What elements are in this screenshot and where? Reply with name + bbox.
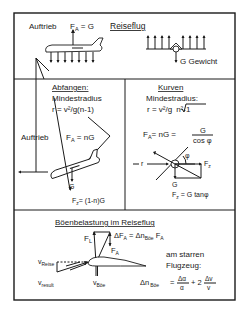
pullout-fz-formula: Fz= (1-n)G xyxy=(72,197,105,206)
turn-lift-formula: FA= nG = xyxy=(143,130,176,140)
turn-frac-num: G xyxy=(200,126,206,135)
svg-text:α: α xyxy=(180,284,184,291)
turn-title: Kurven xyxy=(158,83,183,92)
turn-fz-formula: Fz = G tanφ xyxy=(172,191,209,200)
pullout-radius-label: Mindestradius xyxy=(52,94,102,103)
gust-panel: Böenbelastung im Reiseflug FL ΔFA = ΔnBö… xyxy=(38,218,216,291)
svg-text:Δα: Δα xyxy=(178,275,186,282)
gust-fl-label: FL xyxy=(84,234,92,244)
gust-v-reise: vReise xyxy=(38,258,55,267)
svg-text:+ 2: + 2 xyxy=(191,278,202,287)
weight-distribution-arrows xyxy=(50,52,95,63)
gust-fa-label: FA xyxy=(111,246,120,256)
gust-rigid-line1: am starren xyxy=(166,250,204,259)
svg-text:=: = xyxy=(170,278,175,287)
pullout-radius-formula: r = v²/g(n-1) xyxy=(52,105,94,114)
pullout-aircraft-icon xyxy=(47,149,101,179)
svg-text:v: v xyxy=(207,284,211,291)
gust-title: Böenbelastung im Reiseflug xyxy=(55,218,155,227)
gust-v-boe: vBöe xyxy=(93,279,106,288)
cruise-lift-label: Auftrieb xyxy=(29,22,57,31)
turn-weight-label: G xyxy=(172,181,177,188)
pullout-panel: Abfangen: Mindestradius r = v²/g(n-1) Au… xyxy=(18,83,110,206)
cruise-title: Reiseflug xyxy=(110,21,146,31)
svg-text:Δv: Δv xyxy=(205,275,213,282)
svg-text:ΔnBöe: ΔnBöe xyxy=(140,278,159,288)
pullout-lift-label: Auftrieb xyxy=(21,133,49,142)
turn-fz-label: Fz xyxy=(204,160,211,169)
turn-frac-den: cos φ xyxy=(193,136,212,145)
airfoil-icon xyxy=(88,257,146,266)
cruise-weight-label: G Gewicht xyxy=(180,57,218,66)
flight-loads-diagram: Auftrieb FA = G Reiseflug xyxy=(0,0,248,310)
gust-v-result: vresult xyxy=(38,279,54,288)
pullout-lift-formula: FA = nG xyxy=(66,133,94,143)
gust-dfa-formula: ΔFA = ΔnBöe FA xyxy=(114,231,164,241)
turn-radius-label: Mindestradius: xyxy=(146,94,198,103)
side-aircraft-icon xyxy=(46,29,103,63)
turn-r-label: r xyxy=(141,160,144,167)
pullout-title: Abfangen: xyxy=(52,83,88,92)
turn-phi-label: φ xyxy=(185,152,190,160)
pullout-weight-label: G xyxy=(69,183,74,190)
gust-load-formula: ΔnBöe = Δα α + 2 Δv v xyxy=(140,275,216,291)
turn-panel: Kurven Mindestradius: r = v²/gn²-1 FA= n… xyxy=(133,83,213,200)
gust-rigid-line2: Flugzeug: xyxy=(166,261,201,270)
